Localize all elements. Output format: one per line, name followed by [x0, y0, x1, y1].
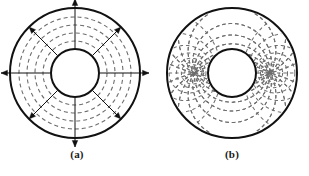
- field-arrow-head: [72, 0, 78, 6]
- figure-panel-a: (a): [0, 0, 154, 176]
- inner-conductor-circle: [208, 49, 256, 97]
- figure-sheet: (a) (b): [0, 0, 309, 176]
- flux-line: [255, 14, 276, 52]
- figure-a-canvas: [0, 0, 154, 150]
- flux-line: [169, 64, 204, 75]
- equipotential-line: [251, 34, 281, 57]
- flux-line: [260, 71, 295, 82]
- field-arrow-head: [72, 141, 78, 148]
- equipotential-line: [173, 45, 209, 60]
- flux-line: [260, 71, 295, 82]
- field-arrow-head: [1, 70, 8, 76]
- figure-b-canvas: [155, 0, 309, 150]
- figure-a-group: [1, 0, 149, 147]
- equipotential-line: [196, 22, 218, 52]
- flux-line: [169, 64, 204, 75]
- field-arrow-head: [143, 70, 150, 76]
- figure-b-caption: (b): [155, 148, 309, 161]
- figure-b-group: [167, 8, 297, 138]
- inner-conductor-circle: [51, 49, 99, 97]
- equipotential-line: [251, 90, 281, 113]
- equipotential-line: [183, 90, 213, 113]
- figure-a-caption: (a): [0, 148, 154, 161]
- figure-panel-b: (b): [155, 0, 309, 176]
- equipotential-line: [246, 94, 268, 124]
- flux-line: [255, 14, 276, 52]
